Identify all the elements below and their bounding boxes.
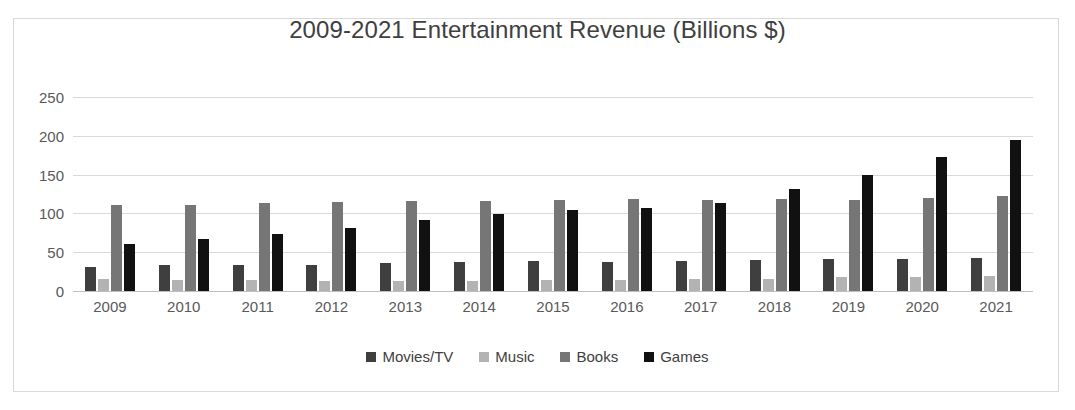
x-tick-2019: 2019 (811, 298, 885, 315)
bar-music-2012[interactable] (319, 281, 330, 291)
legend-label: Books (576, 348, 618, 365)
bar-books-2013[interactable] (406, 201, 417, 291)
bar-movies-tv-2020[interactable] (897, 259, 908, 291)
legend-swatch-icon (644, 352, 654, 362)
chart-title: 2009-2021 Entertainment Revenue (Billion… (0, 16, 1075, 44)
bar-movies-tv-2016[interactable] (602, 262, 613, 291)
bar-group-2020 (885, 97, 959, 291)
bar-books-2016[interactable] (628, 199, 639, 291)
bar-movies-tv-2014[interactable] (454, 262, 465, 291)
y-tick-0: 0 (56, 284, 64, 299)
x-axis-labels: 2009201020112012201320142015201620172018… (73, 298, 1033, 315)
bar-games-2011[interactable] (272, 234, 283, 291)
bar-books-2011[interactable] (259, 203, 270, 291)
bar-music-2016[interactable] (615, 280, 626, 291)
x-tick-2012: 2012 (295, 298, 369, 315)
bar-music-2014[interactable] (467, 281, 478, 291)
bar-games-2014[interactable] (493, 214, 504, 291)
legend-item-movies-tv[interactable]: Movies/TV (366, 348, 453, 365)
x-tick-2018: 2018 (738, 298, 812, 315)
x-tick-2013: 2013 (368, 298, 442, 315)
bar-books-2017[interactable] (702, 200, 713, 291)
x-tick-2020: 2020 (885, 298, 959, 315)
bar-movies-tv-2010[interactable] (159, 265, 170, 291)
bar-books-2009[interactable] (111, 205, 122, 291)
legend-item-games[interactable]: Games (644, 348, 708, 365)
bar-games-2018[interactable] (789, 189, 800, 291)
bar-books-2018[interactable] (776, 199, 787, 291)
bar-group-2017 (664, 97, 738, 291)
bar-games-2020[interactable] (936, 157, 947, 291)
x-tick-2009: 2009 (73, 298, 147, 315)
bar-group-2011 (221, 97, 295, 291)
bar-movies-tv-2011[interactable] (233, 265, 244, 291)
bar-books-2021[interactable] (997, 196, 1008, 291)
bar-movies-tv-2018[interactable] (750, 260, 761, 291)
legend-swatch-icon (560, 352, 570, 362)
bar-music-2020[interactable] (910, 277, 921, 291)
bar-games-2010[interactable] (198, 239, 209, 291)
bar-group-2018 (738, 97, 812, 291)
bar-music-2018[interactable] (763, 279, 774, 291)
bar-movies-tv-2009[interactable] (85, 267, 96, 291)
y-tick-200: 200 (39, 128, 64, 143)
y-tick-250: 250 (39, 90, 64, 105)
bar-games-2019[interactable] (862, 175, 873, 291)
bar-music-2011[interactable] (246, 280, 257, 291)
bar-movies-tv-2015[interactable] (528, 261, 539, 291)
bar-group-2019 (811, 97, 885, 291)
bar-movies-tv-2013[interactable] (380, 263, 391, 291)
bar-games-2015[interactable] (567, 210, 578, 291)
y-axis-labels: 050100150200250 (0, 97, 64, 291)
bar-books-2019[interactable] (849, 200, 860, 291)
legend-item-music[interactable]: Music (479, 348, 534, 365)
bar-group-2012 (295, 97, 369, 291)
bar-music-2009[interactable] (98, 279, 109, 291)
x-tick-2014: 2014 (442, 298, 516, 315)
bar-movies-tv-2019[interactable] (823, 259, 834, 291)
bar-music-2015[interactable] (541, 280, 552, 291)
bar-books-2020[interactable] (923, 198, 934, 291)
plot-area (73, 97, 1033, 291)
legend-label: Movies/TV (382, 348, 453, 365)
legend-label: Music (495, 348, 534, 365)
bar-games-2012[interactable] (345, 228, 356, 291)
bar-games-2017[interactable] (715, 203, 726, 291)
bar-group-2021 (959, 97, 1033, 291)
x-tick-2021: 2021 (959, 298, 1033, 315)
bar-group-2014 (442, 97, 516, 291)
bar-games-2016[interactable] (641, 208, 652, 291)
gridline-0 (73, 291, 1033, 292)
bar-group-2013 (368, 97, 442, 291)
chart-legend: Movies/TVMusicBooksGames (0, 348, 1075, 365)
bar-music-2021[interactable] (984, 276, 995, 291)
bar-music-2013[interactable] (393, 281, 404, 291)
bar-games-2021[interactable] (1010, 140, 1021, 291)
bar-movies-tv-2021[interactable] (971, 258, 982, 291)
bar-music-2010[interactable] (172, 280, 183, 291)
bar-music-2019[interactable] (836, 277, 847, 291)
bar-games-2009[interactable] (124, 244, 135, 291)
legend-swatch-icon (366, 352, 376, 362)
bar-music-2017[interactable] (689, 279, 700, 291)
y-tick-100: 100 (39, 206, 64, 221)
legend-item-books[interactable]: Books (560, 348, 618, 365)
bar-group-2010 (147, 97, 221, 291)
legend-label: Games (660, 348, 708, 365)
bar-group-2015 (516, 97, 590, 291)
bar-groups (73, 97, 1033, 291)
x-tick-2017: 2017 (664, 298, 738, 315)
chart-container: 2009-2021 Entertainment Revenue (Billion… (0, 0, 1075, 410)
bar-books-2014[interactable] (480, 201, 491, 291)
x-tick-2010: 2010 (147, 298, 221, 315)
bar-books-2012[interactable] (332, 202, 343, 291)
bar-books-2015[interactable] (554, 200, 565, 291)
bar-books-2010[interactable] (185, 205, 196, 291)
bar-group-2016 (590, 97, 664, 291)
bar-games-2013[interactable] (419, 220, 430, 291)
bar-group-2009 (73, 97, 147, 291)
bar-movies-tv-2017[interactable] (676, 261, 687, 291)
x-tick-2015: 2015 (516, 298, 590, 315)
y-tick-50: 50 (47, 245, 64, 260)
bar-movies-tv-2012[interactable] (306, 265, 317, 291)
